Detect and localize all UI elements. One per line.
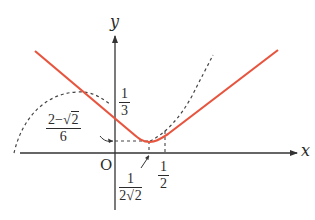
min-x-label: 1 2√2 — [119, 172, 142, 203]
origin-label: O — [100, 158, 112, 173]
y-axis-label: y — [110, 14, 119, 30]
min-x-denominator-prefix: 2 — [119, 188, 126, 203]
min-value-label: 2−√2 6 — [46, 113, 81, 144]
min-value-leader-head — [108, 139, 113, 144]
y-intercept-label: 1 3 — [119, 87, 130, 118]
half-denominator: 2 — [160, 176, 167, 191]
min-value-numerator: 2−√2 — [46, 113, 81, 129]
sqrt-symbol: √2 — [126, 189, 142, 203]
graph-figure: y x O 1 3 2−√2 6 1 2√2 1 2 — [0, 0, 315, 220]
min-value-numerator-prefix: 2− — [48, 112, 63, 127]
x-axis-label: x — [301, 143, 310, 159]
y-intercept-numerator: 1 — [119, 87, 130, 103]
right-dashed-curve — [150, 55, 213, 141]
min-x-radicand: 2 — [134, 187, 142, 203]
min-x-numerator: 1 — [119, 172, 142, 188]
min-x-denominator: 2√2 — [119, 188, 142, 203]
half-numerator: 1 — [158, 160, 169, 176]
sqrt-symbol: √2 — [63, 113, 79, 127]
y-intercept-denominator: 3 — [121, 103, 128, 118]
half-label: 1 2 — [158, 160, 169, 191]
min-value-radicand: 2 — [71, 111, 79, 127]
min-value-denominator: 6 — [60, 129, 67, 144]
